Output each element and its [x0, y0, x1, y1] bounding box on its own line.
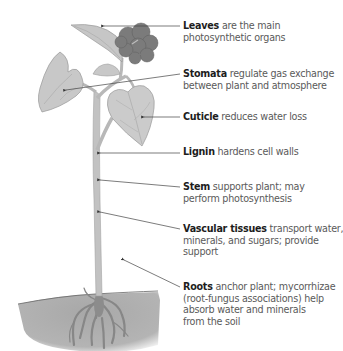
leaf-top: [71, 24, 122, 62]
term-stem: Stem: [183, 181, 210, 192]
desc-roots-4: from the soil: [183, 316, 240, 327]
desc-roots-1: anchor plant; mycorrhizae: [213, 281, 336, 292]
label-stem: Stem supports plant; may perform photosy…: [183, 181, 305, 204]
label-cuticle: Cuticle reduces water loss: [183, 111, 307, 123]
desc-cuticle-1: reduces water loss: [218, 111, 306, 122]
desc-roots-3: absorb water and minerals: [183, 304, 306, 315]
soil-region: [18, 292, 160, 351]
root-crown: [94, 293, 104, 317]
term-lignin: Lignin: [183, 146, 215, 157]
label-roots: Roots anchor plant; mycorrhizae (root-fu…: [183, 281, 335, 327]
desc-stem-2: perform photosynthesis: [183, 193, 292, 204]
desc-leaves-2: photosynthetic organs: [183, 32, 285, 43]
leader-roots: [124, 260, 180, 287]
term-leaves: Leaves: [183, 20, 219, 31]
label-vascular-tissues: Vascular tissues transport water, minera…: [183, 223, 343, 258]
leaf-small: [93, 64, 120, 76]
term-roots: Roots: [183, 281, 213, 292]
desc-stomata-1: regulate gas exchange: [227, 68, 334, 79]
label-lignin: Lignin hardens cell walls: [183, 146, 299, 158]
soil: [0, 0, 18, 74]
leaf-heart: [107, 86, 154, 146]
label-leaves: Leaves are the main photosynthetic organ…: [183, 20, 285, 43]
term-vascular-tissues: Vascular tissues: [183, 223, 267, 234]
desc-vascular-2: minerals, and sugars; provide: [183, 235, 319, 246]
desc-roots-2: (root-fungus associations) help: [183, 293, 324, 304]
desc-vascular-3: support: [183, 246, 218, 257]
desc-stomata-2: between plant and atmosphere: [183, 80, 327, 91]
desc-leaves-1: are the main: [219, 20, 280, 31]
desc-lignin-1: hardens cell walls: [215, 146, 299, 157]
leader-vascular: [100, 212, 180, 229]
term-cuticle: Cuticle: [183, 111, 218, 122]
label-stomata: Stomata regulate gas exchange between pl…: [183, 68, 334, 91]
stem: [93, 90, 102, 296]
desc-vascular-1: transport water,: [267, 223, 343, 234]
term-stomata: Stomata: [183, 68, 227, 79]
desc-stem-1: supports plant; may: [210, 181, 305, 192]
leader-stem: [100, 180, 180, 187]
